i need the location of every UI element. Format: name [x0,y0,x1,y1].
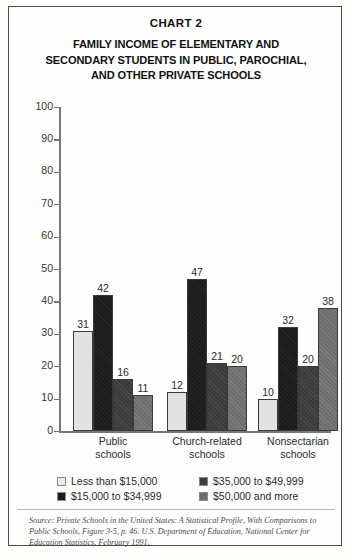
y-axis-tick-label: 10 [41,391,53,403]
category-label-line: Nonsectarian [258,435,338,448]
bar-value-label: 21 [211,350,223,362]
legend-item[interactable]: $35,000 to $49,999 [199,475,304,487]
bar[interactable]: 32 [278,327,298,431]
chart-page: CHART 2 FAMILY INCOME OF ELEMENTARY AND … [0,0,351,556]
legend-swatch-icon [57,477,66,486]
legend-item[interactable]: $50,000 and more [199,490,298,502]
bar[interactable]: 38 [318,308,338,431]
y-axis-tick-label: 30 [41,326,53,338]
legend-row: Less than $15,000$35,000 to $49,999 [57,475,327,490]
bar-value-label: 32 [282,314,294,326]
bar-value-label: 12 [171,379,183,391]
legend-item[interactable]: $15,000 to $34,999 [57,490,162,502]
y-axis-tick-label: 60 [41,229,53,241]
y-axis-tick-label: 90 [41,132,53,144]
bar[interactable]: 31 [73,331,93,431]
y-axis-tick-label: 40 [41,294,53,306]
y-axis-tick-mark [54,399,59,400]
y-axis-tick-mark [54,366,59,367]
bar[interactable]: 16 [113,379,133,431]
bar-value-label: 20 [231,353,243,365]
bar-value-label: 31 [77,318,89,330]
y-axis-tick-mark [54,301,59,302]
bar-group: 12472120 [167,107,247,431]
chart-title-line-3: AND OTHER PRIVATE SCHOOLS [23,68,328,84]
chart-title-line-1: FAMILY INCOME OF ELEMENTARY AND [23,37,328,53]
legend-row: $15,000 to $34,999$50,000 and more [57,490,327,505]
bar-value-label: 42 [97,282,109,294]
bar-value-label: 47 [191,266,203,278]
category-label-line: Public [73,435,153,448]
bar-value-label: 20 [302,353,314,365]
category-label-line: Church-related [167,435,247,448]
y-axis-line [59,107,61,431]
y-axis-tick-mark [54,269,59,270]
y-axis-tick-mark [54,107,59,108]
legend-swatch-icon [199,477,208,486]
bar[interactable]: 20 [227,366,247,431]
y-axis-tick-label: 20 [41,359,53,371]
x-axis-line [59,431,331,433]
legend-label: Less than $15,000 [71,475,157,487]
y-axis-tick-mark [54,334,59,335]
bar[interactable]: 20 [298,366,318,431]
y-axis-tick-mark [54,172,59,173]
legend-label: $50,000 and more [213,490,298,502]
bar[interactable]: 10 [258,399,278,431]
category-label: Publicschools [73,435,153,461]
bar-value-label: 38 [322,295,334,307]
category-label-line: schools [167,448,247,461]
y-axis-tick-mark [54,139,59,140]
bar-group: 10322038 [258,107,338,431]
y-axis-tick-label: 70 [41,197,53,209]
bar-value-label: 11 [138,382,149,394]
y-axis-tick-label: 0 [47,424,53,436]
legend-label: $15,000 to $34,999 [71,490,162,502]
chart-frame: CHART 2 FAMILY INCOME OF ELEMENTARY AND … [8,6,342,546]
bar[interactable]: 42 [93,295,113,431]
bar-group: 31421611 [73,107,153,431]
legend-item[interactable]: Less than $15,000 [57,475,157,487]
y-axis-tick-mark [54,431,59,432]
plot-area: 1009080706050403020100 31421611124721201… [59,107,331,437]
y-axis-tick-mark [54,237,59,238]
chart-title-line-2: SECONDARY STUDENTS IN PUBLIC, PAROCHIAL, [23,53,328,69]
bar[interactable]: 12 [167,392,187,431]
bar-value-label: 10 [262,386,274,398]
chart-legend: Less than $15,000$35,000 to $49,999$15,0… [57,475,327,505]
chart-number-label: CHART 2 [9,17,343,29]
y-axis-tick-label: 50 [41,262,53,274]
axis-box: 1009080706050403020100 31421611124721201… [59,107,331,431]
source-divider [17,509,335,510]
bar[interactable]: 21 [207,363,227,431]
y-axis-tick-mark [54,204,59,205]
y-axis-tick-label: 80 [41,164,53,176]
category-label-line: schools [73,448,153,461]
category-label-line: schools [258,448,338,461]
chart-title: FAMILY INCOME OF ELEMENTARY AND SECONDAR… [23,37,328,84]
category-label: Church-relatedschools [167,435,247,461]
legend-label: $35,000 to $49,999 [213,475,304,487]
bar[interactable]: 47 [187,279,207,431]
y-axis-tick-label: 100 [35,100,53,112]
bar[interactable]: 11 [133,395,153,431]
source-note: Source: Private Schools in the United St… [29,515,329,548]
legend-swatch-icon [57,492,66,501]
bar-value-label: 16 [117,366,129,378]
category-label: Nonsectarianschools [258,435,338,461]
legend-swatch-icon [199,492,208,501]
